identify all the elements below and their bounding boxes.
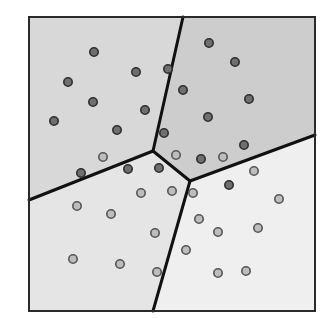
light-point (151, 229, 159, 237)
light-point (107, 210, 115, 218)
light-point (137, 189, 145, 197)
dark-point (164, 65, 172, 73)
light-point (250, 167, 258, 175)
light-point (182, 246, 190, 254)
light-point (214, 228, 222, 236)
light-point (214, 269, 222, 277)
light-point (172, 151, 180, 159)
dark-point (179, 86, 187, 94)
dark-point (245, 95, 253, 103)
dark-point (160, 129, 168, 137)
voronoi-diagram (0, 0, 329, 318)
voronoi-canvas (0, 0, 329, 318)
dark-point (124, 165, 132, 173)
dark-point (132, 68, 140, 76)
dark-point (90, 48, 98, 56)
dark-point (77, 169, 85, 177)
dark-point (89, 98, 97, 106)
light-point (73, 202, 81, 210)
light-point (69, 255, 77, 263)
light-point (168, 187, 176, 195)
dark-point (50, 117, 58, 125)
light-point (153, 268, 161, 276)
light-point (219, 153, 227, 161)
light-point (275, 195, 283, 203)
dark-point (225, 181, 233, 189)
light-point (242, 267, 250, 275)
light-point (189, 189, 197, 197)
light-point (116, 260, 124, 268)
light-point (99, 153, 107, 161)
light-point (195, 215, 203, 223)
dark-point (205, 39, 213, 47)
dark-point (197, 155, 205, 163)
dark-point (240, 141, 248, 149)
dark-point (64, 78, 72, 86)
dark-point (155, 164, 163, 172)
dark-point (231, 58, 239, 66)
dark-point (141, 106, 149, 114)
dark-point (204, 113, 212, 121)
dark-point (113, 126, 121, 134)
light-point (254, 224, 262, 232)
